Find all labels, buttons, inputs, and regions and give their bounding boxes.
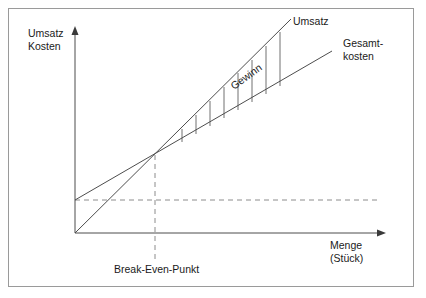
break-even-point-label: Break-Even-Punkt (114, 263, 199, 276)
total-cost-line-label: Gesamt- kosten (343, 37, 383, 62)
y-axis-label-line1: Umsatz (28, 27, 64, 40)
total-cost-line (75, 51, 332, 200)
revenue-line (75, 19, 291, 233)
total-cost-line-label-line2: kosten (343, 50, 383, 63)
revenue-line-label: Umsatz (293, 15, 329, 28)
y-axis-label-line2: Kosten (28, 40, 64, 53)
x-axis-arrow-icon (377, 230, 386, 237)
x-axis-label-line1: Menge (330, 239, 363, 252)
figure-canvas: Umsatz Kosten Menge (Stück) Umsatz Gesam… (0, 0, 426, 298)
x-axis-label-line2: (Stück) (330, 252, 363, 265)
y-axis-label: Umsatz Kosten (28, 27, 64, 52)
total-cost-line-label-line1: Gesamt- (343, 37, 383, 50)
x-axis-label: Menge (Stück) (330, 239, 363, 264)
y-axis-arrow-icon (72, 26, 79, 35)
